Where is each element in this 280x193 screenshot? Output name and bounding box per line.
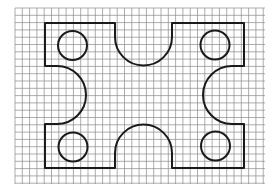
diagram-canvas (0, 0, 280, 193)
bottom-right-hole (201, 132, 230, 161)
grid (15, 8, 265, 184)
top-left-hole (58, 31, 87, 60)
holes (58, 31, 230, 162)
